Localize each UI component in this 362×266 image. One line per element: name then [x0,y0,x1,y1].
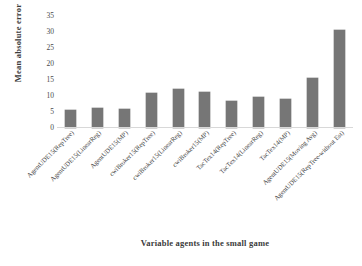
bar[interactable] [146,93,157,128]
bar-series [57,16,353,128]
bar-slot [192,16,219,128]
bar-slot [326,16,353,128]
y-axis-tick-label: 15 [47,76,55,84]
bar[interactable] [253,97,264,128]
x-axis-category-label-text: AgentUDE15(Moving Avg) [261,129,318,186]
y-axis-tick-label: 30 [47,28,55,36]
bar[interactable] [226,101,237,128]
x-axis-category-label-text: cwiBroker15(LinearReg) [131,129,183,181]
y-axis-tick-label: 20 [47,60,55,68]
bar[interactable] [119,109,130,128]
bar-slot [245,16,272,128]
y-axis-ticks: 35302520151050 [32,16,54,128]
bar[interactable] [307,78,318,128]
bar[interactable] [334,30,345,128]
bar[interactable] [92,108,103,128]
y-axis-title: Mean absolute error [13,0,23,105]
y-axis-tick-label: 5 [50,108,54,116]
bar-slot [111,16,138,128]
x-axis-category-label-text: AgentUDE15(RepTree) [26,129,76,179]
bar-slot [84,16,111,128]
x-axis-category-labels: AgentUDE15(RepTree)AgentUDE15(LinearReg)… [57,129,353,233]
x-axis-baseline [57,127,353,128]
y-axis-tick-label: 10 [47,92,55,100]
x-axis-title: Variable agents in the small game [57,238,353,248]
bar-slot [218,16,245,128]
bar-chart: Mean absolute error 35302520151050 Agent… [0,0,362,266]
bar-slot [138,16,165,128]
bar-slot [299,16,326,128]
bar[interactable] [65,110,76,128]
y-axis-tick-label: 25 [47,44,55,52]
y-axis-tick-label: 0 [50,124,54,132]
plot-area [57,16,353,128]
bar[interactable] [173,89,184,128]
bar-slot [165,16,192,128]
bar-slot [272,16,299,128]
bar-slot [57,16,84,128]
bar[interactable] [199,92,210,128]
bar[interactable] [280,99,291,128]
y-axis-tick-label: 35 [47,12,55,20]
x-axis-category-label-text: AgentUDE15(LinearReg) [49,129,102,182]
